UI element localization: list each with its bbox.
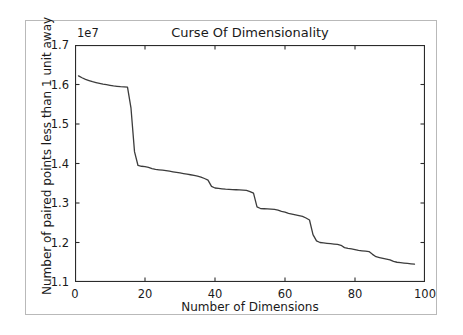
x-tick-label: 100 <box>414 287 436 301</box>
plot-area: 1.11.21.31.41.51.61.7 020406080100 <box>75 45 425 282</box>
x-axis-title: Number of Dimensions <box>75 300 425 314</box>
plot-frame <box>76 46 425 282</box>
axes-spines <box>76 46 425 282</box>
x-tick-label: 0 <box>71 287 78 301</box>
x-tick-label: 40 <box>208 287 223 301</box>
chart-title: Curse Of Dimensionality <box>75 25 425 40</box>
x-tick-label: 60 <box>278 287 293 301</box>
line-chart-svg <box>75 45 425 282</box>
chart-figure: Curse Of Dimensionality 1e7 1.11.21.31.4… <box>0 0 463 335</box>
x-tick-label: 80 <box>348 287 363 301</box>
x-tick-label: 20 <box>138 287 153 301</box>
y-axis-title: Number of paired points less than 1 unit… <box>40 45 54 295</box>
y-axis-offset-label: 1e7 <box>77 26 99 40</box>
